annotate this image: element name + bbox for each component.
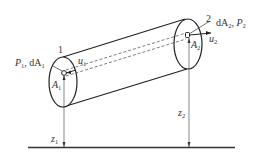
label-u2: u2: [209, 33, 217, 45]
streamline-lower: [66, 39, 186, 76]
label-u1: u1: [78, 55, 86, 67]
cylinder-top-edge: [63, 19, 185, 57]
label-z2: z2: [177, 107, 185, 119]
element-A1-marker: [62, 71, 67, 76]
pipe-flow-diagram: 1 2 P1, dA1 u1 A1 dA2, P2 u2 A2 z1 z2: [0, 0, 261, 159]
z1-arrowhead-bottom: [63, 142, 66, 147]
cylinder-bottom-edge: [63, 69, 187, 107]
label-P1-dA1: P1, dA1: [14, 57, 45, 69]
label-A2: A2: [190, 39, 200, 51]
section-2-number: 2: [206, 13, 211, 24]
z2-arrowhead-bottom: [188, 142, 191, 147]
label-z1: z1: [50, 133, 58, 145]
section-1-number: 1: [58, 44, 63, 55]
label-dA2-P2: dA2, P2: [216, 17, 246, 29]
element-A2-marker: [186, 33, 190, 38]
